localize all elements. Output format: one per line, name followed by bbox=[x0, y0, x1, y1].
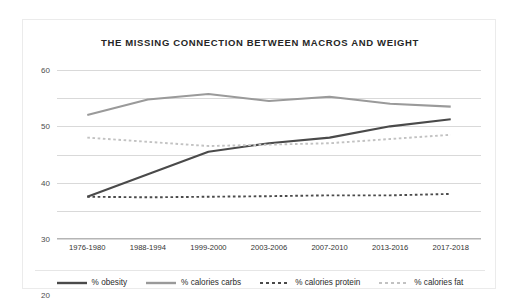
x-axis-tick-label: 1976-1980 bbox=[69, 243, 105, 252]
legend-line-swatch bbox=[57, 279, 87, 287]
chart-title: THE MISSING CONNECTION BETWEEN MACROS AN… bbox=[23, 37, 497, 48]
chart-legend: % obesity% calories carbs% calories prot… bbox=[23, 278, 497, 287]
legend-divider bbox=[35, 270, 485, 271]
y-axis-tick-label: 60 bbox=[41, 66, 50, 75]
series-lines bbox=[57, 70, 481, 239]
x-axis-tick-label: 2007-2010 bbox=[311, 243, 347, 252]
series-line bbox=[87, 135, 450, 146]
legend-item[interactable]: % calories fat bbox=[379, 278, 463, 287]
x-axis-tick-label: 1988-1994 bbox=[130, 243, 166, 252]
legend-line-swatch bbox=[146, 279, 176, 287]
y-axis-tick-label: 40 bbox=[41, 178, 50, 187]
plot-area: 0102030405060 bbox=[57, 70, 481, 239]
legend-line-swatch bbox=[260, 279, 290, 287]
y-axis-tick-label: 50 bbox=[41, 122, 50, 131]
y-axis-tick-label: 20 bbox=[41, 291, 50, 300]
legend-line-swatch bbox=[379, 279, 409, 287]
series-line bbox=[87, 119, 450, 196]
legend-item[interactable]: % obesity bbox=[57, 278, 128, 287]
x-axis-labels: 1976-19801988-19941999-20002003-20062007… bbox=[57, 243, 481, 259]
x-axis-tick-label: 2003-2006 bbox=[251, 243, 287, 252]
legend-label: % calories protein bbox=[295, 278, 360, 287]
legend-label: % calories carbs bbox=[181, 278, 241, 287]
x-axis-tick-label: 2017-2018 bbox=[433, 243, 469, 252]
series-line bbox=[87, 194, 450, 197]
legend-label: % obesity bbox=[92, 278, 128, 287]
x-axis-tick-label: 2013-2016 bbox=[372, 243, 408, 252]
y-axis-tick-label: 30 bbox=[41, 235, 50, 244]
gridline: 0 bbox=[57, 239, 481, 240]
chart-card: THE MISSING CONNECTION BETWEEN MACROS AN… bbox=[22, 19, 496, 289]
legend-item[interactable]: % calories carbs bbox=[146, 278, 241, 287]
legend-label: % calories fat bbox=[414, 278, 463, 287]
legend-item[interactable]: % calories protein bbox=[260, 278, 360, 287]
series-line bbox=[87, 94, 450, 115]
x-axis-tick-label: 1999-2000 bbox=[190, 243, 226, 252]
